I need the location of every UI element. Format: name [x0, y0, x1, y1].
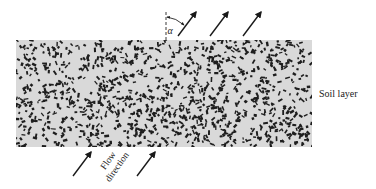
soil-grain — [53, 47, 55, 51]
soil-grain — [253, 105, 255, 107]
soil-grain — [37, 101, 38, 103]
soil-grain — [198, 83, 200, 85]
soil-grain — [117, 124, 119, 127]
soil-layer-label: Soil layer — [319, 88, 358, 99]
inflow-arrow-icon — [73, 152, 91, 176]
soil-grain — [244, 112, 247, 117]
soil-grain — [222, 58, 224, 60]
soil-grain — [106, 85, 108, 87]
soil-grain — [100, 105, 103, 106]
flow-direction-label: Flow direction — [94, 144, 131, 184]
soil-grain — [128, 117, 131, 119]
soil-grain — [59, 68, 60, 71]
soil-grain — [270, 128, 271, 132]
outflow-arrows — [178, 12, 261, 36]
soil-grain — [94, 48, 96, 53]
soil-grain — [238, 72, 240, 73]
soil-grain — [232, 79, 236, 81]
soil-grain — [99, 83, 102, 86]
soil-grain — [292, 124, 296, 126]
soil-grain — [56, 42, 57, 47]
soil-grain — [246, 72, 248, 75]
soil-grain — [276, 136, 278, 141]
soil-grain — [31, 119, 34, 123]
soil-grain — [176, 52, 179, 53]
angle-alpha-label: α — [168, 25, 174, 36]
soil-grain — [103, 95, 107, 96]
soil-grain — [149, 47, 153, 49]
soil-grain — [94, 135, 97, 136]
soil-grain — [120, 57, 124, 58]
soil-grain — [98, 94, 101, 96]
soil-grain — [237, 51, 240, 53]
soil-grain — [262, 90, 264, 93]
soil-grain — [250, 75, 252, 77]
soil-grain — [171, 107, 174, 108]
soil-grain — [114, 56, 116, 61]
soil-flow-diagram: α Flow direction Soil layer — [0, 0, 376, 189]
soil-grain — [42, 145, 46, 147]
soil-grain — [144, 136, 146, 139]
soil-grain — [287, 61, 289, 64]
soil-grain — [307, 86, 311, 89]
soil-grain — [184, 117, 187, 119]
soil-grain — [282, 119, 285, 122]
soil-grain — [271, 126, 273, 129]
soil-grain — [219, 125, 221, 128]
soil-grain — [79, 106, 83, 108]
soil-grain — [23, 125, 27, 127]
soil-grain — [265, 77, 267, 79]
soil-grain — [101, 132, 104, 134]
soil-grain — [202, 126, 205, 129]
soil-grain — [109, 141, 112, 145]
soil-grain — [117, 48, 119, 51]
soil-grain — [208, 130, 210, 135]
soil-grain — [129, 144, 131, 147]
soil-grain — [155, 77, 159, 79]
soil-grain — [278, 117, 280, 119]
soil-grain — [266, 56, 270, 58]
soil-grain — [211, 77, 213, 82]
soil-grain — [54, 141, 57, 143]
soil-grain — [292, 65, 294, 66]
soil-grain — [201, 88, 203, 92]
soil-grain — [229, 39, 231, 42]
soil-grain — [115, 120, 119, 122]
soil-grain — [157, 98, 159, 100]
soil-grain — [306, 125, 309, 128]
soil-grain — [150, 67, 153, 69]
soil-grain — [232, 61, 235, 63]
soil-grain — [253, 136, 256, 138]
soil-grain — [71, 101, 73, 104]
soil-grain — [247, 41, 250, 43]
soil-grain — [192, 142, 194, 144]
soil-grain — [95, 132, 99, 135]
soil-grain — [291, 79, 293, 82]
soil-grain — [171, 56, 175, 58]
soil-grain — [282, 110, 284, 115]
soil-grain — [254, 114, 257, 117]
soil-grain — [270, 141, 272, 144]
soil-grain — [66, 98, 68, 101]
soil-grain — [286, 39, 290, 42]
soil-grain — [48, 70, 50, 74]
soil-grain — [74, 111, 77, 113]
soil-grain — [265, 91, 269, 93]
soil-grain — [29, 104, 31, 106]
soil-grain — [242, 141, 244, 143]
inflow-arrow-icon — [137, 152, 155, 176]
soil-grain — [47, 121, 50, 123]
soil-grain — [61, 64, 66, 66]
soil-grain — [298, 78, 301, 80]
angle-arc-icon — [167, 17, 184, 25]
soil-grain — [285, 121, 287, 124]
soil-grain — [163, 125, 168, 127]
soil-grain — [253, 68, 255, 72]
soil-grain — [214, 72, 218, 74]
soil-grain — [78, 46, 80, 50]
soil-grain — [190, 96, 193, 98]
soil-grain — [15, 118, 19, 121]
soil-grain — [135, 131, 138, 135]
soil-grain — [158, 49, 161, 51]
soil-grain — [212, 122, 214, 125]
